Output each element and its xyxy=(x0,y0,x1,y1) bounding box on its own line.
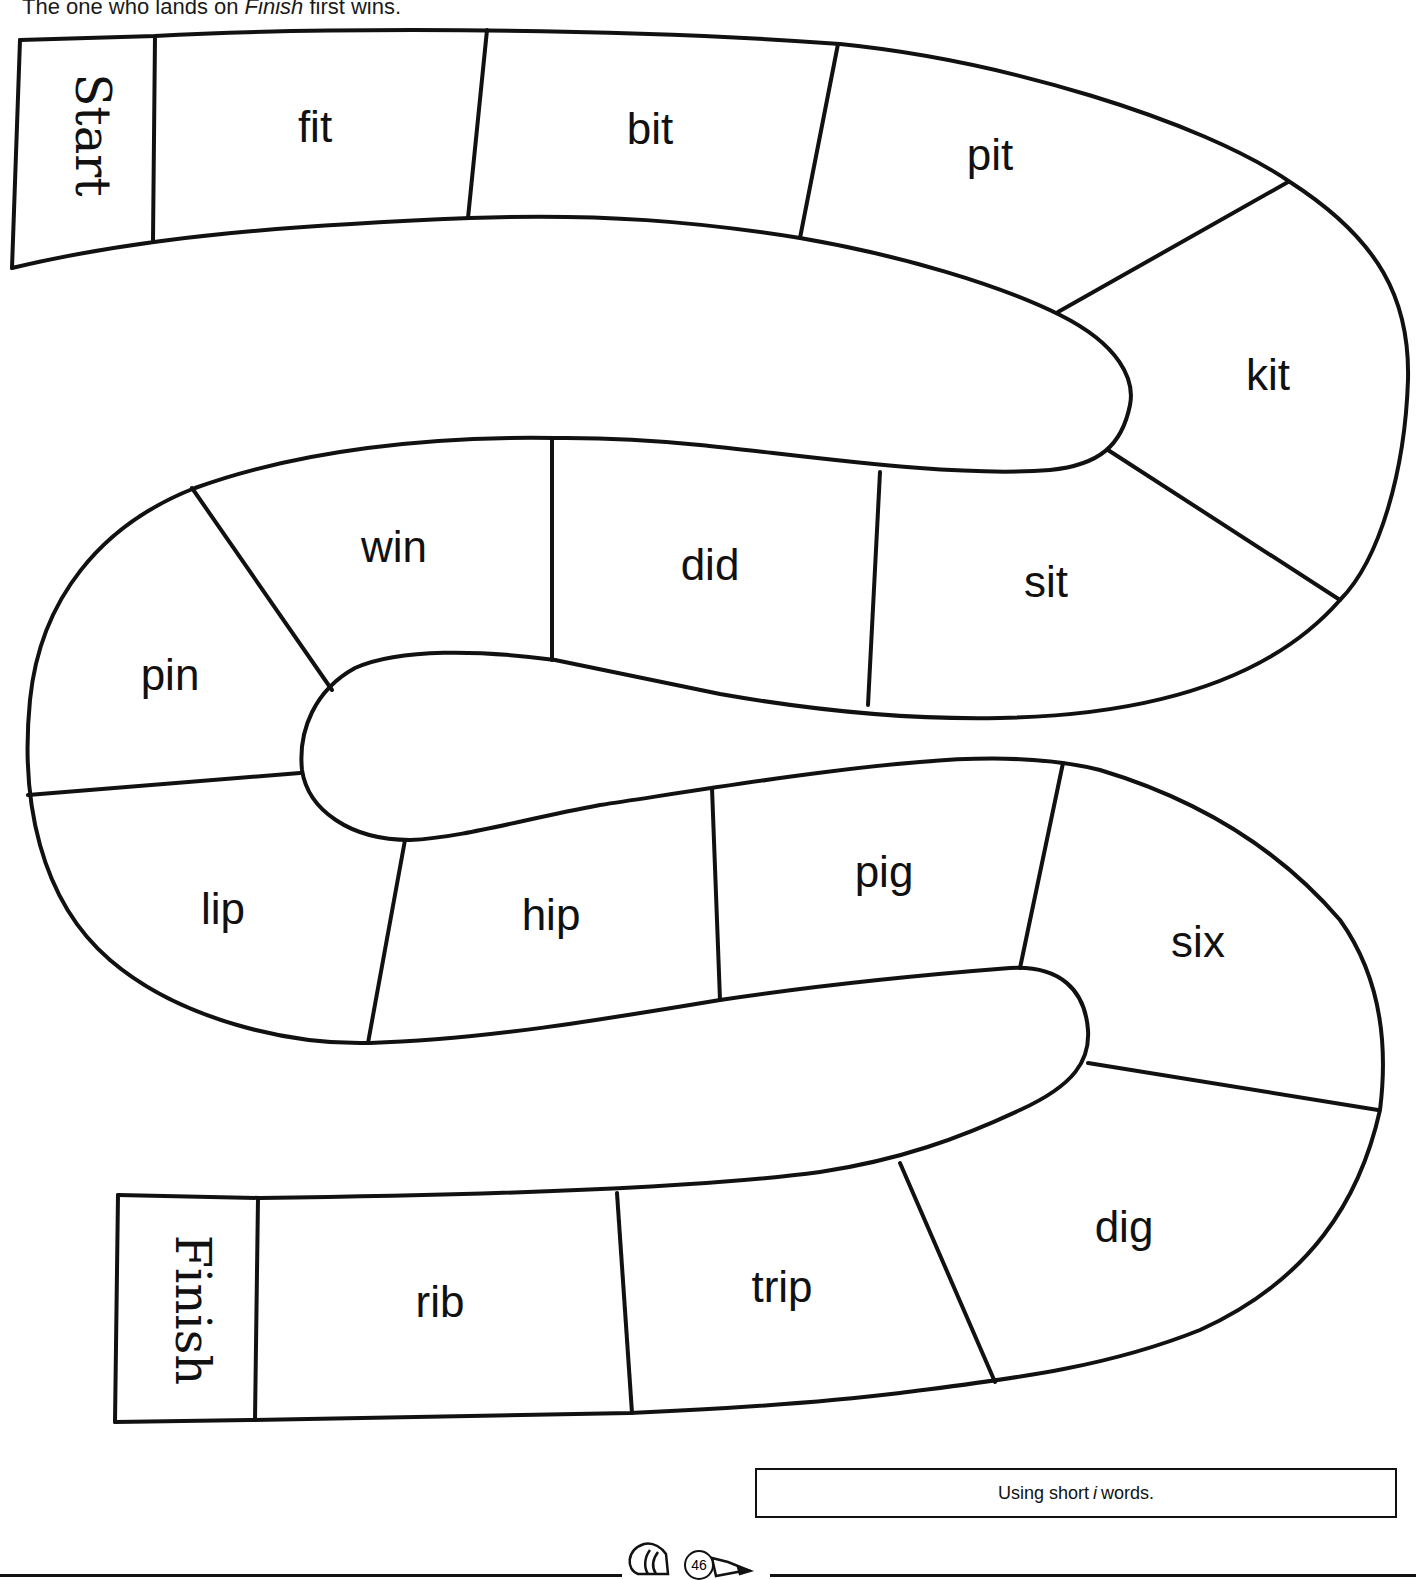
space-pig: pig xyxy=(855,847,914,896)
caption-prefix: Using short xyxy=(998,1483,1089,1504)
start-label: Start xyxy=(65,73,121,196)
space-six: six xyxy=(1171,917,1225,966)
space-bit: bit xyxy=(627,104,673,153)
space-dig: dig xyxy=(1095,1202,1154,1251)
space-pit: pit xyxy=(967,130,1013,179)
path-outer-top xyxy=(20,30,1408,718)
space-trip: trip xyxy=(751,1262,812,1311)
caption-box: Using short i words. xyxy=(755,1468,1397,1518)
space-fit: fit xyxy=(298,102,332,151)
space-hip: hip xyxy=(522,890,581,939)
space-rib: rib xyxy=(416,1277,465,1326)
finish-label: Finish xyxy=(165,1235,221,1385)
path-inner-middle xyxy=(115,653,1383,1422)
path-inner-top xyxy=(12,217,1131,472)
space-pin: pin xyxy=(141,650,200,699)
caption-emphasis: i xyxy=(1093,1483,1097,1504)
footer-line-right xyxy=(770,1574,1416,1577)
space-kit: kit xyxy=(1246,350,1290,399)
space-sit: sit xyxy=(1024,557,1068,606)
space-win: win xyxy=(360,522,427,571)
space-lip: lip xyxy=(201,884,245,933)
space-did: did xyxy=(681,540,740,589)
caption-suffix: words. xyxy=(1101,1483,1154,1504)
page-number: 46 xyxy=(684,1550,714,1580)
path-outer-middle xyxy=(28,438,1089,1198)
footer-line-left xyxy=(0,1574,622,1577)
